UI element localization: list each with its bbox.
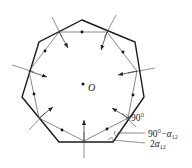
radial-lines bbox=[12, 15, 155, 158]
angle-arc-complement bbox=[114, 131, 116, 136]
label-2-alpha12: 2α12 bbox=[150, 139, 166, 150]
center-point bbox=[82, 83, 85, 86]
midpoint-dots bbox=[33, 31, 135, 132]
heptagon-force-diagram: O 90° 90°−α12 2α12 bbox=[0, 0, 192, 168]
angle-arc-double bbox=[108, 138, 113, 140]
outer-heptagon bbox=[22, 20, 144, 142]
leader-double bbox=[112, 140, 145, 143]
center-label: O bbox=[88, 82, 95, 93]
label-90: 90° bbox=[131, 113, 145, 123]
